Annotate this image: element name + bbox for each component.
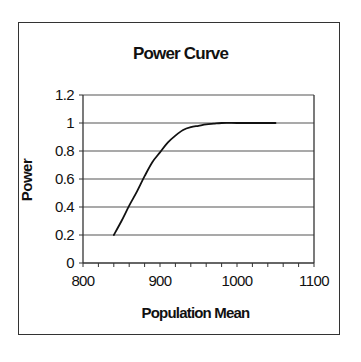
x-tick-label: 1000 [222, 272, 253, 289]
x-axis-ticks: 80090010001100 [71, 263, 329, 289]
gridlines [83, 95, 314, 235]
plot-area: 00.20.40.60.811.2 80090010001100 [0, 0, 361, 362]
y-tick-label: 0.2 [55, 226, 74, 243]
y-axis-ticks: 00.20.40.60.811.2 [55, 86, 83, 271]
y-tick-label: 1 [66, 114, 74, 131]
y-tick-label: 1.2 [55, 86, 74, 103]
y-tick-label: 0.8 [55, 142, 74, 159]
x-tick-label: 900 [148, 272, 171, 289]
y-tick-label: 0.4 [55, 198, 74, 215]
y-tick-label: 0.6 [55, 170, 74, 187]
x-tick-label: 800 [71, 272, 94, 289]
x-tick-label: 1100 [299, 272, 329, 289]
y-tick-label: 0 [66, 254, 74, 271]
